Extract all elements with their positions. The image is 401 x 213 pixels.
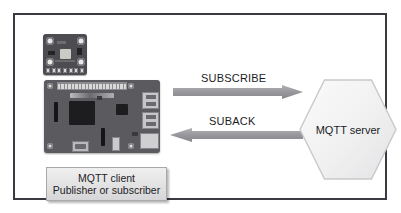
- gpio-pin: [75, 84, 77, 89]
- mqtt-server-hexagon-graphic: [299, 79, 397, 180]
- gpio-pin: [103, 84, 105, 89]
- header-pin: [63, 68, 67, 73]
- gpio-pin: [72, 84, 74, 89]
- gpio-pin: [65, 84, 67, 89]
- gpio-pin: [93, 84, 95, 89]
- usb-slot: [146, 102, 156, 106]
- mqtt-subscribe-diagram: MQTT client Publisher or subscriber SUBS…: [0, 0, 401, 213]
- gpio-pin: [79, 84, 81, 89]
- gpio-pin: [106, 84, 108, 89]
- mounting-hole: [46, 58, 54, 66]
- mounting-hole: [77, 58, 85, 66]
- display-connector: [101, 128, 105, 146]
- mounting-hole: [128, 143, 134, 149]
- header-pin: [80, 68, 84, 73]
- gpio-pin: [110, 84, 112, 89]
- mounting-hole: [46, 37, 54, 45]
- suback-arrow: [170, 128, 303, 142]
- usb-port-lower: [142, 112, 159, 129]
- subscribe-arrow-graphic: [173, 85, 303, 99]
- gpio-pin: [61, 84, 63, 89]
- mqtt-client-label-line-1: MQTT client: [78, 172, 135, 184]
- suback-arrow-graphic: [170, 128, 303, 142]
- header-pin: [52, 68, 56, 73]
- mqtt-client-label-box: MQTT client Publisher or subscriber: [46, 167, 167, 201]
- usb-slot: [146, 115, 156, 119]
- gpio-pin: [99, 84, 101, 89]
- smd-component: [132, 132, 138, 136]
- soc-chip: [69, 101, 95, 125]
- mounting-hole: [47, 143, 53, 149]
- mounting-hole: [47, 83, 53, 89]
- board-silkscreen-logo: [70, 93, 114, 98]
- smd-component: [97, 96, 102, 100]
- subscribe-label: SUBSCRIBE: [201, 72, 266, 84]
- suback-label: SUBACK: [209, 115, 255, 127]
- gpio-pin: [58, 84, 60, 89]
- sensor-chip: [60, 49, 71, 59]
- mounting-hole: [77, 37, 85, 45]
- camera-connector: [54, 102, 58, 122]
- gpio-pin: [113, 84, 115, 89]
- usb-slot: [146, 122, 156, 126]
- pcb-trace: [55, 60, 75, 62]
- memory-chip: [116, 104, 128, 115]
- diagram-frame: MQTT client Publisher or subscriber SUBS…: [13, 13, 387, 200]
- gpio-pin: [117, 84, 119, 89]
- smd-component: [57, 41, 66, 44]
- gpio-header: [57, 82, 127, 90]
- gpio-pin: [86, 84, 88, 89]
- subscribe-arrow: [173, 85, 303, 99]
- header-pin: [46, 68, 50, 73]
- header-pin: [57, 68, 61, 73]
- gpio-pin: [120, 84, 122, 89]
- smd-component: [77, 48, 82, 55]
- usb-slot: [146, 95, 156, 99]
- pin-header: [46, 67, 84, 74]
- gpio-pin: [96, 84, 98, 89]
- usb-port-upper: [142, 92, 159, 109]
- hdmi-port: [112, 137, 120, 151]
- gpio-pin: [124, 84, 126, 89]
- gpio-pin: [82, 84, 84, 89]
- micro-usb-power-port: [72, 141, 89, 152]
- mqtt-client-label-line-2: Publisher or subscriber: [53, 184, 160, 196]
- header-pin: [74, 68, 78, 73]
- mounting-hole: [128, 83, 134, 89]
- mqtt-server-shape: MQTT server: [299, 79, 397, 180]
- gpio-pin: [89, 84, 91, 89]
- sensor-breakout-board-image: [43, 34, 87, 75]
- ethernet-port: [140, 133, 159, 149]
- header-pin: [69, 68, 73, 73]
- single-board-computer-image: [44, 80, 160, 153]
- micro-usb-slot: [75, 144, 86, 149]
- smd-component: [48, 51, 55, 55]
- gpio-pin: [68, 84, 70, 89]
